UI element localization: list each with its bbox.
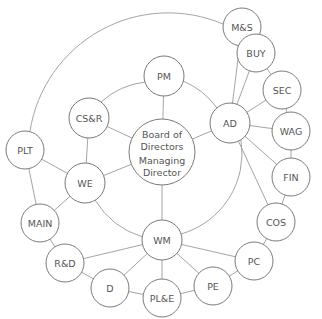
node-label: R&D [54, 258, 75, 269]
node-label: PM [157, 71, 171, 82]
node-label: FIN [283, 172, 298, 183]
node-pe[interactable]: PE [194, 267, 232, 305]
node-buy[interactable]: BUY [237, 34, 275, 72]
node-main[interactable]: MAIN [21, 204, 59, 242]
node-label: M&S [231, 22, 253, 33]
org-network-diagram: Board of Directors Managing Director PMC… [0, 0, 322, 319]
node-label: WM [153, 235, 171, 246]
node-label: WE [77, 178, 92, 189]
node-label: WAG [280, 126, 303, 137]
node-label: PC [248, 256, 261, 267]
node-label: BUY [246, 48, 265, 59]
node-label: SEC [273, 85, 292, 96]
node-csr[interactable]: CS&R [69, 98, 109, 138]
node-rd[interactable]: R&D [46, 244, 84, 282]
arc-pm-ad [183, 81, 217, 108]
node-label: D [106, 283, 113, 294]
node-label: PE [207, 281, 219, 292]
node-label: PL&E [150, 293, 174, 304]
nodes: Board of Directors Managing Director PMC… [6, 8, 310, 317]
arc-csr-pm [101, 82, 145, 102]
center-label-line2: Directors [140, 141, 183, 152]
node-wag[interactable]: WAG [272, 112, 310, 150]
node-label: AD [223, 118, 237, 129]
node-ad[interactable]: AD [210, 103, 250, 143]
node-label: MAIN [28, 218, 53, 229]
node-pm[interactable]: PM [144, 56, 184, 96]
node-we[interactable]: WE [65, 163, 105, 203]
node-label: COS [266, 217, 286, 228]
center-label-line4: Director [143, 167, 181, 178]
node-pc[interactable]: PC [235, 242, 273, 280]
node-cos[interactable]: COS [257, 203, 295, 241]
node-sec[interactable]: SEC [263, 71, 301, 109]
node-fin[interactable]: FIN [272, 158, 310, 196]
node-label: PLT [17, 145, 33, 156]
center-node-board-md[interactable]: Board of Directors Managing Director [129, 119, 195, 185]
node-d[interactable]: D [91, 269, 129, 307]
node-wm[interactable]: WM [142, 220, 182, 260]
center-label-line1: Board of [142, 129, 183, 140]
center-label-line3: Managing [139, 155, 186, 166]
arc-plt-ms [30, 13, 223, 131]
node-ple[interactable]: PL&E [143, 279, 181, 317]
arc-we-wm [95, 200, 143, 237]
node-plt[interactable]: PLT [6, 131, 44, 169]
node-label: CS&R [76, 113, 103, 124]
